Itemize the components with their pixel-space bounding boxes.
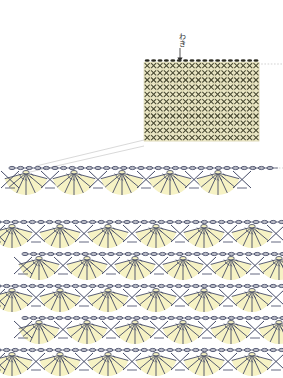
pattern-diagram-canvas: わき bbox=[0, 0, 283, 378]
down-arrow-icon bbox=[177, 48, 182, 62]
waki-arrow-layer bbox=[0, 0, 283, 378]
